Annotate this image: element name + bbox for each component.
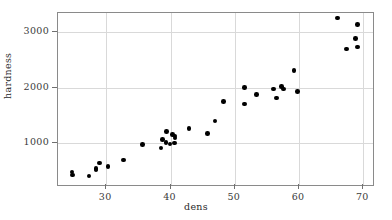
- y-axis-tick-mark: [52, 142, 57, 143]
- data-point: [242, 85, 247, 90]
- x-axis-tick-mark: [362, 184, 363, 189]
- data-point: [335, 16, 340, 21]
- y-axis-tick-label: 1000: [24, 136, 49, 147]
- data-point: [355, 22, 360, 27]
- data-point: [94, 166, 99, 171]
- data-point: [140, 142, 145, 147]
- gridline-vertical: [171, 13, 172, 185]
- data-point: [295, 89, 300, 94]
- data-point: [121, 158, 126, 163]
- plot-area: [58, 13, 373, 185]
- data-point: [254, 92, 259, 97]
- y-axis-tick-label: 2000: [24, 81, 49, 92]
- x-axis-tick-mark: [234, 184, 235, 189]
- data-point: [172, 141, 177, 146]
- gridline-vertical: [235, 13, 236, 185]
- scatter-plot-figure: 1000200030003040506070 hardness dens: [0, 0, 392, 220]
- data-point: [281, 87, 286, 92]
- data-point: [242, 102, 247, 107]
- data-point: [221, 99, 226, 104]
- data-point: [70, 173, 75, 178]
- x-axis-label: dens: [0, 201, 392, 212]
- gridline-vertical: [106, 13, 107, 185]
- data-point: [292, 68, 297, 73]
- data-point: [164, 129, 169, 134]
- data-point: [274, 96, 279, 101]
- data-point: [159, 146, 164, 151]
- y-axis-tick-label: 3000: [24, 25, 49, 36]
- gridline-vertical: [299, 13, 300, 185]
- data-point: [87, 174, 92, 179]
- data-point: [205, 131, 210, 136]
- y-axis-tick-mark: [52, 31, 57, 32]
- data-point: [106, 164, 111, 169]
- data-point: [213, 119, 218, 124]
- data-point: [271, 87, 276, 92]
- x-axis-tick-mark: [170, 184, 171, 189]
- data-point: [355, 45, 360, 50]
- x-axis-tick-mark: [105, 184, 106, 189]
- y-axis-label: hardness: [2, 53, 13, 99]
- data-point: [187, 126, 192, 131]
- gridline-vertical: [363, 13, 364, 185]
- y-axis-tick-mark: [52, 87, 57, 88]
- data-point: [97, 161, 102, 166]
- plot-panel: [57, 12, 374, 186]
- data-point: [353, 36, 358, 41]
- x-axis-tick-mark: [298, 184, 299, 189]
- data-point: [344, 47, 349, 52]
